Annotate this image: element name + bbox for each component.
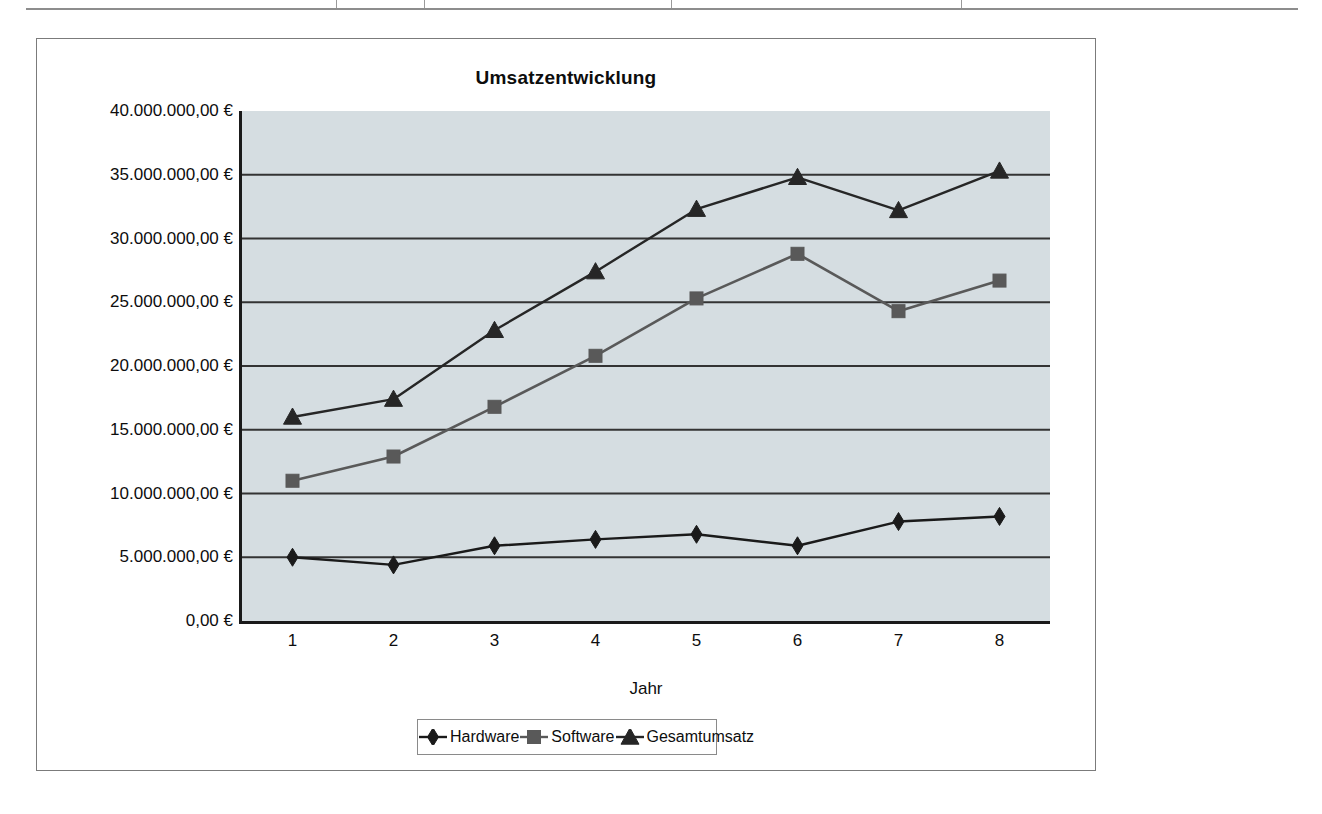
diamond-marker-icon: [489, 537, 500, 555]
triangle-marker-icon: [587, 263, 605, 279]
legend-entry[interactable]: Software: [519, 728, 614, 746]
y-axis-tick-label: 0,00 €: [37, 611, 233, 631]
square-marker-icon: [286, 474, 299, 487]
x-axis-tick-label: 1: [288, 631, 297, 651]
triangle-marker-icon: [615, 729, 645, 745]
chart-title: Umsatzentwicklung: [37, 67, 1095, 89]
x-axis-tick-label: 8: [995, 631, 1004, 651]
diamond-marker-icon: [691, 525, 702, 543]
legend-label: Gesamtumsatz: [647, 728, 755, 746]
x-axis-tick-label: 6: [793, 631, 802, 651]
legend-entry[interactable]: Gesamtumsatz: [615, 728, 755, 746]
triangle-marker-icon: [486, 321, 504, 337]
y-axis-tick-label: 20.000.000,00 €: [37, 356, 233, 376]
y-axis-tick-label: 10.000.000,00 €: [37, 484, 233, 504]
x-axis-title: Jahr: [242, 679, 1050, 699]
y-axis-tick-label: 30.000.000,00 €: [37, 229, 233, 249]
square-marker-icon: [892, 305, 905, 318]
square-marker-icon: [589, 349, 602, 362]
chart-plot-svg: [242, 111, 1050, 621]
x-axis-tick-label: 5: [692, 631, 701, 651]
diamond-marker-icon: [287, 548, 298, 566]
triangle-marker-icon: [789, 168, 807, 184]
chart-legend: HardwareSoftwareGesamtumsatz: [417, 719, 717, 755]
square-marker-icon: [993, 274, 1006, 287]
x-axis-tick-labels: 12345678: [242, 631, 1050, 665]
legend-label: Software: [551, 728, 614, 746]
diamond-marker-icon: [418, 729, 448, 745]
table-column-divider: [671, 0, 672, 8]
truncated-table-strip: [26, 0, 1298, 10]
x-axis-tick-label: 4: [591, 631, 600, 651]
triangle-marker-icon: [385, 390, 403, 406]
y-axis-tick-label: 40.000.000,00 €: [37, 101, 233, 121]
square-marker-icon: [519, 729, 549, 745]
series-line-gesamtumsatz: [293, 171, 1000, 417]
diamond-marker-icon: [428, 729, 439, 745]
x-axis-tick-label: 3: [490, 631, 499, 651]
table-column-divider: [424, 0, 425, 8]
square-marker-icon: [528, 731, 541, 744]
diamond-marker-icon: [893, 513, 904, 531]
y-axis-tick-label: 35.000.000,00 €: [37, 165, 233, 185]
plot-area: [239, 111, 1050, 624]
y-axis-tick-label: 15.000.000,00 €: [37, 420, 233, 440]
diamond-marker-icon: [590, 530, 601, 548]
y-axis-tick-label: 5.000.000,00 €: [37, 547, 233, 567]
table-column-divider: [961, 0, 962, 8]
diamond-marker-icon: [388, 556, 399, 574]
x-axis-tick-label: 7: [894, 631, 903, 651]
y-axis-tick-label: 25.000.000,00 €: [37, 292, 233, 312]
series-line-software: [293, 254, 1000, 481]
triangle-marker-icon: [991, 162, 1009, 178]
square-marker-icon: [791, 247, 804, 260]
square-marker-icon: [387, 450, 400, 463]
y-axis-tick-labels: 0,00 €5.000.000,00 €10.000.000,00 €15.00…: [37, 111, 233, 621]
legend-entry[interactable]: Hardware: [418, 728, 519, 746]
chart-container[interactable]: Umsatzentwicklung 0,00 €5.000.000,00 €10…: [36, 38, 1096, 771]
square-marker-icon: [690, 292, 703, 305]
x-axis-tick-label: 2: [389, 631, 398, 651]
square-marker-icon: [488, 400, 501, 413]
diamond-marker-icon: [994, 507, 1005, 525]
legend-label: Hardware: [450, 728, 519, 746]
diamond-marker-icon: [792, 537, 803, 555]
table-column-divider: [336, 0, 337, 8]
